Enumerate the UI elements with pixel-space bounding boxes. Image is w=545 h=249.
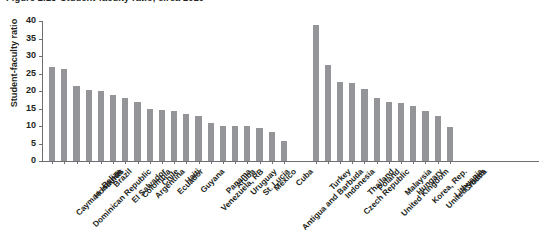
x-axis-tick-mark (352, 161, 353, 164)
x-axis-tick-mark (438, 161, 439, 164)
bar (73, 86, 79, 161)
x-axis-tick-mark (52, 161, 53, 164)
x-axis-tick-mark (113, 161, 114, 164)
x-axis-tick-mark (89, 161, 90, 164)
bar (208, 123, 214, 162)
bar (325, 65, 331, 161)
y-axis-tick-label: 10 (0, 121, 36, 130)
bar (232, 126, 238, 161)
x-axis-tick-mark (162, 161, 163, 164)
x-axis-tick-mark (64, 161, 65, 164)
x-axis-tick-mark (125, 161, 126, 164)
x-axis-tick-mark (247, 161, 248, 164)
bar (195, 116, 201, 162)
bar (447, 127, 453, 161)
y-axis-tick-label: 40 (0, 16, 36, 25)
bar (398, 103, 404, 161)
x-axis-tick-mark (174, 161, 175, 164)
bar (61, 69, 67, 161)
x-axis-tick-mark (211, 161, 212, 164)
x-axis-tick-mark (101, 161, 102, 164)
x-axis-tick-mark (186, 161, 187, 164)
bar (220, 126, 226, 161)
y-axis-tick-label: 30 (0, 51, 36, 60)
bar (86, 90, 92, 161)
bar (159, 110, 165, 161)
y-axis-tick-label: 5 (0, 139, 36, 148)
bar (349, 83, 355, 161)
x-axis-tick-mark (364, 161, 365, 164)
x-axis-tick-mark (389, 161, 390, 164)
bar (256, 128, 262, 161)
y-axis-tick-label: 20 (0, 86, 36, 95)
x-axis-tick-mark (138, 161, 139, 164)
bar (244, 126, 250, 161)
y-axis-tick-label: 35 (0, 34, 36, 43)
plot-area (42, 21, 539, 161)
x-axis-tick-mark (284, 161, 285, 164)
x-axis-tick-mark (77, 161, 78, 164)
x-axis-tick-mark (316, 161, 317, 164)
x-axis-tick-mark (235, 161, 236, 164)
x-axis-line (42, 161, 539, 162)
x-axis-tick-mark (272, 161, 273, 164)
y-axis-tick-label: 15 (0, 104, 36, 113)
bar (49, 67, 55, 162)
y-axis-tick-label: 25 (0, 69, 36, 78)
x-axis-tick-mark (377, 161, 378, 164)
bar (386, 102, 392, 161)
bar (410, 106, 416, 161)
bar (374, 98, 380, 161)
x-axis-tick-mark (401, 161, 402, 164)
x-axis-tick-mark (413, 161, 414, 164)
y-axis-tick-label: 0 (0, 156, 36, 165)
bar (281, 141, 287, 161)
bar (361, 89, 367, 161)
bar (171, 111, 177, 161)
bar (98, 91, 104, 161)
x-axis-tick-label: Cuba (294, 167, 315, 188)
bar (122, 98, 128, 161)
bar (269, 132, 275, 161)
x-axis-tick-mark (450, 161, 451, 164)
bar (147, 109, 153, 162)
x-axis-tick-mark (340, 161, 341, 164)
x-axis-tick-mark (199, 161, 200, 164)
x-axis-tick-mark (223, 161, 224, 164)
bar (134, 102, 140, 161)
x-axis-tick-mark (425, 161, 426, 164)
figure-title-text: Student-faculty ratio, circa 2010 (60, 0, 204, 3)
bar (422, 111, 428, 161)
x-axis-tick-mark (260, 161, 261, 164)
bar (313, 25, 319, 161)
y-axis-tick-mark (39, 161, 42, 162)
bar (435, 116, 441, 162)
figure-title: Figure 2.13Student-faculty ratio, circa … (6, 0, 204, 3)
bar (110, 95, 116, 162)
x-axis-tick-mark (150, 161, 151, 164)
bar (183, 114, 189, 161)
bar (337, 82, 343, 161)
x-axis-tick-mark (328, 161, 329, 164)
